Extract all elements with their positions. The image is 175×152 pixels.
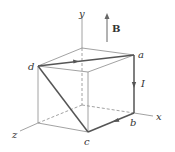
cube-current-loop-diagram: y x z B I a b c d [0,0,175,152]
segment-b-c [88,113,134,132]
x-axis-label: x [156,111,162,122]
b-field-arrowhead-icon [105,13,110,19]
x-axis-solid [134,113,153,116]
current-arrows [73,60,136,122]
edge-top-back [82,48,134,55]
z-axis-solid [20,123,38,131]
x-axis-hidden [82,105,134,113]
edge-top-front [38,66,88,72]
current-label: I [140,78,146,89]
z-axis-hidden [38,105,82,123]
arrow-b-to-c-icon [112,118,120,122]
current-loop [38,55,134,132]
b-field-label: B [112,23,120,34]
point-a-label: a [138,49,144,60]
arrow-d-to-a-icon [73,60,79,64]
z-axis-label: z [11,129,18,140]
arrow-a-to-b-icon [132,82,136,88]
point-d-label: d [28,61,34,72]
segment-c-d [38,66,88,132]
edge-bottom-front [38,123,88,132]
point-b-label: b [130,117,136,128]
magnetic-field-arrow [105,13,110,42]
y-axis-label: y [78,8,85,19]
point-c-label: c [84,136,90,147]
